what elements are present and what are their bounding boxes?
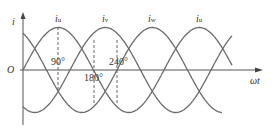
y-axis-arrow-icon bbox=[21, 12, 26, 19]
curve-label-iw: iw bbox=[148, 14, 156, 25]
waveform-plot bbox=[0, 0, 277, 131]
angle-label-180: 180° bbox=[84, 73, 103, 83]
origin-label: O bbox=[7, 65, 14, 75]
curve-label-iu-2: iu bbox=[196, 14, 202, 25]
curve-label-iv: iv bbox=[102, 14, 108, 25]
x-axis-label: ωt bbox=[250, 76, 260, 86]
angle-label-240: 240° bbox=[109, 57, 128, 67]
x-axis-arrow-icon bbox=[255, 68, 263, 73]
angle-label-90: 90° bbox=[51, 57, 65, 67]
curve-label-iu: iu bbox=[55, 14, 61, 25]
y-axis-label: i bbox=[12, 17, 15, 27]
